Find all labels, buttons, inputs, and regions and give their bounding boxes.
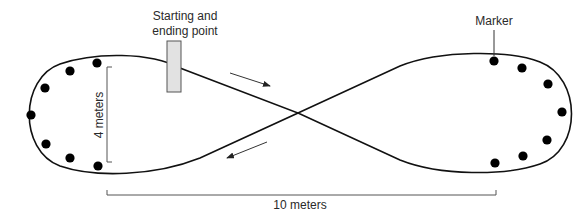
marker-dot — [518, 151, 527, 160]
marker-dot — [489, 56, 498, 65]
marker-dot — [542, 135, 551, 144]
right-loop-path — [298, 53, 572, 172]
marker-dot — [26, 110, 35, 119]
marker-dot — [92, 58, 101, 67]
height-dimension-bracket — [107, 67, 112, 162]
marker-dot — [490, 158, 499, 167]
figure-eight-track — [29, 53, 571, 173]
marker-dot — [65, 153, 74, 162]
marker-dot — [517, 63, 526, 72]
marker-dot — [65, 66, 74, 75]
marker-dot — [543, 79, 552, 88]
start-label-line1: Starting and — [153, 9, 218, 23]
width-dimension-label: 10 meters — [273, 198, 326, 212]
direction-arrow-icon — [227, 142, 267, 158]
right-loop-markers — [489, 56, 566, 167]
marker-dot — [40, 83, 49, 92]
start-label-line2: ending point — [152, 24, 218, 38]
width-dimension-bracket — [107, 190, 496, 195]
figure-eight-diagram: Marker Starting and ending point 4 meter… — [0, 0, 587, 218]
start-end-box — [167, 41, 181, 92]
marker-dot — [557, 107, 566, 116]
marker-dot — [93, 161, 102, 170]
marker-label: Marker — [475, 14, 512, 28]
height-dimension-label: 4 meters — [92, 92, 106, 139]
direction-arrow-icon — [230, 73, 270, 86]
marker-dot — [41, 139, 50, 148]
